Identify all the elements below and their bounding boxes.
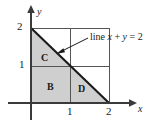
callout-equals: = 2 — [127, 31, 143, 42]
figure-canvas: 2 1 1 2 x y C B D line x + y = 2 — [0, 0, 158, 127]
y-axis-label: y — [37, 7, 41, 17]
callout-leader-line — [60, 38, 88, 52]
x-axis-label: x — [138, 104, 142, 114]
x-tick-label-2: 2 — [106, 106, 112, 117]
region-label-d: D — [78, 84, 85, 94]
x-axis-arrowhead — [129, 99, 137, 107]
callout-prefix: line — [90, 31, 108, 42]
region-label-c: C — [41, 53, 48, 63]
y-axis-arrowhead — [27, 5, 35, 13]
region-label-b: B — [47, 82, 54, 92]
callout-plus: + — [112, 31, 123, 42]
y-tick-label-1: 1 — [19, 59, 25, 70]
callout-leader — [56, 38, 88, 54]
line-equation-callout: line x + y = 2 — [90, 32, 143, 42]
x-tick-label-1: 1 — [67, 106, 73, 117]
y-tick-label-2: 2 — [17, 21, 23, 32]
callout-leader-arrowhead — [56, 48, 65, 54]
